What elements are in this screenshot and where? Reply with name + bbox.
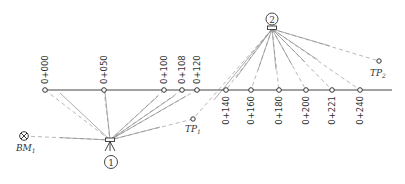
station-point [277,88,282,93]
instrument-station-1: 1 [105,138,118,169]
level-instrument-icon [268,26,277,30]
station-point [180,88,185,93]
station-label: 0+200 [301,96,311,125]
benchmark-label: BM1 [15,143,36,154]
instrument-station-2: 2 [266,13,278,30]
station-point [162,88,167,93]
level-instrument-icon [106,138,115,142]
station-label: 0+108 [177,55,187,84]
station-label: 0+120 [192,55,202,84]
tripod-icon [105,142,110,152]
station-label: 0+000 [40,55,50,84]
station-point [195,88,200,93]
leveling-diagram: 0+000 0+050 0+100 0+108 0+120 0+140 0+16… [0,0,405,184]
station-label: 0+100 [159,55,169,84]
station-point [43,88,48,93]
station-label: 0+140 [221,96,231,125]
tp1-label: TP1 [185,124,201,135]
station-point [330,88,335,93]
benchmark-bm1: BM1 [15,132,36,154]
station-point [304,88,309,93]
station-label: 0+160 [246,96,256,125]
station-point [249,88,254,93]
tp2-label: TP2 [370,68,386,79]
station-label: 0+050 [99,55,109,84]
station-label: 0+240 [355,96,365,125]
station-point [102,88,107,93]
station-number: 1 [108,158,114,168]
station-label: 0+180 [274,96,284,125]
station-number: 2 [269,15,275,25]
station-label: 0+221 [327,96,337,125]
turning-point-tp1: TP1 [185,117,201,135]
sight-lines-station-1 [24,90,197,140]
station-point [358,88,363,93]
turning-point-tp2: TP2 [370,59,386,79]
station-point [224,88,229,93]
